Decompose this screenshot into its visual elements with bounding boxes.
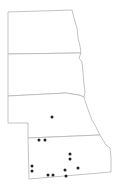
map-point [52, 174, 55, 177]
map-point [65, 175, 68, 178]
map-point [44, 139, 47, 142]
state-nebraska [8, 93, 100, 138]
state-south-dakota [8, 53, 85, 97]
state-outlines [8, 10, 111, 179]
map-point [38, 139, 41, 142]
state-kansas [28, 135, 111, 179]
map-point [31, 165, 34, 168]
map-point [47, 174, 50, 177]
state-north-dakota [8, 10, 81, 54]
state-map [0, 0, 124, 192]
map-point [69, 158, 72, 161]
map-point [64, 169, 67, 172]
map-point [69, 153, 72, 156]
map-point [31, 170, 34, 173]
map-point [77, 167, 80, 170]
map-point [51, 116, 54, 119]
